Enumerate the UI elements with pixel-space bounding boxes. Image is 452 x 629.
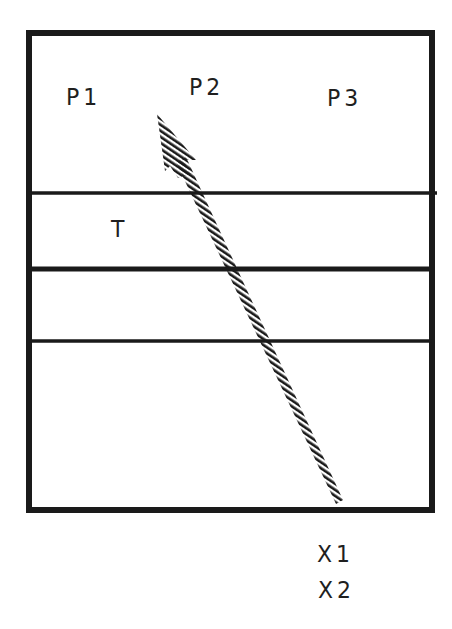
hatched-arrow: [157, 114, 343, 504]
label-x2: X2: [318, 579, 355, 602]
label-p1: P1: [66, 86, 101, 109]
label-t: T: [111, 218, 128, 241]
arrow-shaft: [176, 157, 343, 504]
label-x1: X1: [317, 543, 354, 566]
label-p3: P3: [327, 87, 362, 110]
diagram-canvas: P1 P2 P3 T X1 X2: [0, 0, 452, 629]
label-p2: P2: [189, 76, 224, 99]
